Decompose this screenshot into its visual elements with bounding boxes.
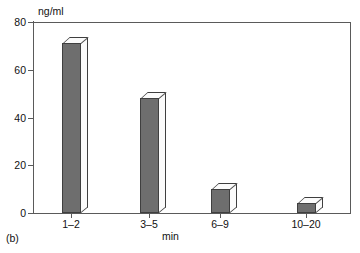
y-tick-0	[28, 213, 34, 214]
x-tick-label-1-2: 1–2	[51, 219, 91, 230]
y-tick-20	[28, 165, 34, 166]
y-tick-label-80-wrap: 80	[0, 17, 26, 27]
y-tick-80	[28, 22, 34, 23]
panel-caption: (b)	[6, 233, 19, 244]
y-tick-label-60: 60	[0, 65, 26, 75]
bar-front-face	[297, 203, 316, 213]
y-tick-40	[28, 118, 34, 119]
y-tick-label-60-wrap: 60	[0, 65, 26, 75]
y-tick-label-0: 0	[0, 208, 26, 218]
bar-side-face	[81, 37, 88, 213]
bar-3-5	[140, 98, 159, 213]
bar-front-face	[211, 189, 230, 213]
y-tick-60	[28, 70, 34, 71]
bar-front-face	[62, 43, 81, 213]
y-axis-unit-label: ng/ml	[38, 6, 64, 17]
y-tick-label-80: 80	[0, 17, 26, 27]
y-tick-label-40-wrap: 40	[0, 113, 26, 123]
bar-10-20	[297, 203, 316, 213]
x-tick-label-6-9: 6–9	[200, 219, 240, 230]
x-tick-label-3-5: 3–5	[129, 219, 169, 230]
bar-side-face	[159, 92, 166, 213]
figure-panel-b: ng/ml 80 60 40 20 0 1–2	[0, 0, 360, 253]
y-tick-label-20-wrap: 20	[0, 160, 26, 170]
bar-front-face	[140, 98, 159, 213]
y-tick-label-20: 20	[0, 160, 26, 170]
bar-1-2	[62, 43, 81, 213]
y-tick-label-0-wrap: 0	[0, 208, 26, 218]
x-tick-label-10-20: 10–20	[284, 219, 328, 230]
x-axis-title: min	[162, 231, 179, 242]
y-tick-label-40: 40	[0, 113, 26, 123]
bar-6-9	[211, 189, 230, 213]
